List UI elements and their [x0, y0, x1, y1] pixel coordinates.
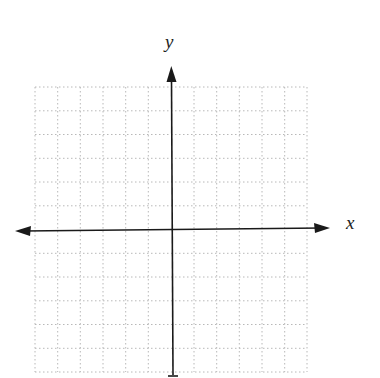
y-axis-label: y — [165, 31, 173, 53]
y-axis — [167, 66, 179, 376]
coordinate-plane — [0, 0, 380, 378]
x-axis-left-arrow-icon — [15, 226, 31, 236]
y-axis-up-arrow-icon — [167, 66, 177, 82]
x-axis-label: x — [346, 212, 354, 234]
x-axis-right-arrow-icon — [314, 223, 330, 233]
